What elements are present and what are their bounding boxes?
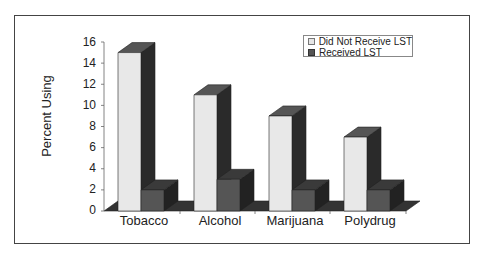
x-category-label: Polydrug <box>330 213 410 228</box>
x-category-label: Alcohol <box>180 213 260 228</box>
y-tick: 6 <box>76 140 96 154</box>
y-tick: 2 <box>76 182 96 196</box>
y-tick: 8 <box>76 119 96 133</box>
y-axis-label: Percent Using <box>39 75 54 157</box>
y-tick: 0 <box>76 203 96 217</box>
y-tick: 10 <box>76 98 96 112</box>
legend-swatch-dark <box>308 49 315 56</box>
y-tick: 16 <box>76 35 96 49</box>
y-tick: 12 <box>76 77 96 91</box>
y-tick: 14 <box>76 56 96 70</box>
x-category-label: Marijuana <box>255 213 335 228</box>
chart-legend: Did Not Receive LST Received LST <box>303 35 413 57</box>
legend-item: Did Not Receive LST <box>308 36 412 47</box>
x-category-label: Tobacco <box>104 213 184 228</box>
y-tick: 4 <box>76 161 96 175</box>
legend-item: Received LST <box>308 47 412 58</box>
legend-swatch-light <box>308 38 315 45</box>
